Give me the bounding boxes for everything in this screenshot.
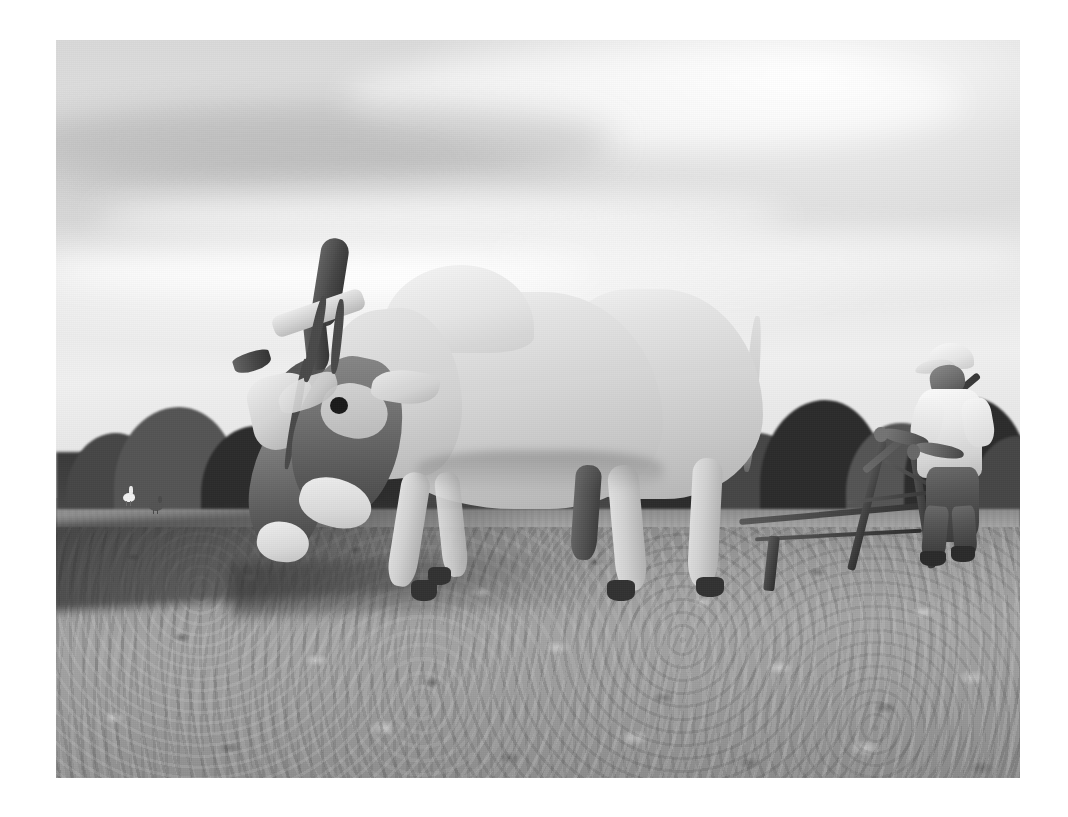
lead-ox-hoof <box>696 577 724 597</box>
lead-ox-belly-shadow <box>417 451 663 492</box>
lead-ox-hoof <box>607 580 635 600</box>
bird-leg <box>130 501 131 506</box>
farmer-boot-front <box>920 551 946 566</box>
dark-bird <box>149 496 164 513</box>
lead-ox-front-leg-near <box>385 470 432 589</box>
lead-ox-hoof <box>428 567 451 585</box>
bird-neck <box>158 496 162 503</box>
bird-leg <box>157 510 158 514</box>
lead-ox-eye <box>330 397 348 414</box>
bird-leg <box>153 510 154 514</box>
bird-leg <box>126 501 127 506</box>
lead-ox-hind-leg-rear <box>687 458 724 588</box>
cloud-band <box>56 154 442 191</box>
page-root <box>0 0 1068 817</box>
photograph <box>56 40 1020 778</box>
plow-share <box>763 536 780 592</box>
farmer-hand-right <box>907 444 920 459</box>
bird-body <box>123 493 135 502</box>
farmer <box>885 343 1020 564</box>
lead-ox <box>249 261 808 600</box>
egret-bird <box>122 486 136 506</box>
bird-neck <box>129 486 133 495</box>
farmer-hand-left <box>874 427 887 442</box>
farmer-boot-back <box>951 546 975 561</box>
